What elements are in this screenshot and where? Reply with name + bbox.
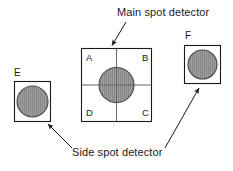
arrow-main-spot-detector bbox=[112, 22, 126, 46]
detector-e-spot-circle bbox=[17, 86, 48, 117]
main-spot-detector-caption: Main spot detector bbox=[117, 7, 209, 18]
side-spot-detector-caption: Side spot detector bbox=[72, 147, 162, 158]
detector-e-label: E bbox=[14, 68, 21, 78]
quadrant-label-b: B bbox=[142, 53, 148, 63]
side-spot-detector-e bbox=[15, 82, 51, 122]
detector-diagram: Main spot detector Side spot detector A … bbox=[0, 0, 233, 171]
quadrant-label-a: A bbox=[86, 53, 92, 63]
arrow-side-spot-detector-f bbox=[165, 88, 199, 148]
detector-f-label: F bbox=[185, 31, 191, 41]
quadrant-label-d: D bbox=[86, 108, 93, 118]
quadrant-label-c: C bbox=[142, 108, 149, 118]
side-spot-detector-f bbox=[185, 46, 221, 84]
detector-f-spot-circle bbox=[188, 50, 217, 79]
arrow-side-spot-detector-e bbox=[48, 124, 72, 148]
